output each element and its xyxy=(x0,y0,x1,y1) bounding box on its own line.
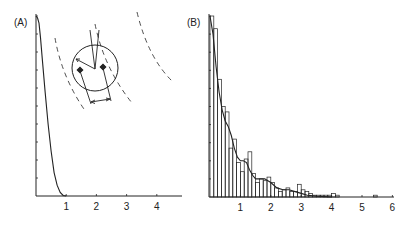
histogram-bar xyxy=(240,172,244,197)
histogram-bar xyxy=(335,195,339,197)
converging-line-right xyxy=(95,30,99,69)
panel-a-x-ticks: 1234 xyxy=(63,194,160,212)
extension-line-left xyxy=(80,71,91,104)
histogram-bar xyxy=(278,192,282,197)
inset-schematic xyxy=(55,12,173,112)
panel-a-label: (A) xyxy=(14,17,27,28)
panel-b-label: (B) xyxy=(187,17,200,28)
panel-b-x-ticks: 123456 xyxy=(238,195,396,213)
x-tick-label: 3 xyxy=(124,201,130,212)
converging-line-left xyxy=(90,30,95,69)
panel-b-fit-curve xyxy=(210,16,332,197)
histogram-bar xyxy=(290,192,294,197)
histogram-bar xyxy=(297,184,301,197)
x-tick-label: 3 xyxy=(298,202,304,213)
x-tick-label: 1 xyxy=(238,202,244,213)
x-tick-label: 5 xyxy=(359,202,365,213)
dashed-arc-outer xyxy=(137,12,173,82)
panel-a: (A) 1234 xyxy=(14,12,182,212)
panel-b: (B) 123456 xyxy=(187,14,396,213)
x-tick-label: 2 xyxy=(94,201,100,212)
histogram-bar xyxy=(373,195,377,197)
panel-b-histogram-bars xyxy=(210,16,377,197)
x-tick-label: 6 xyxy=(390,202,396,213)
histogram-bar xyxy=(237,163,241,197)
x-tick-label: 1 xyxy=(63,201,69,212)
dashed-arc-middle xyxy=(95,24,132,103)
x-tick-label: 2 xyxy=(268,202,274,213)
extension-line-right xyxy=(103,68,111,101)
histogram-bar xyxy=(332,193,336,197)
x-tick-label: 4 xyxy=(154,201,160,212)
histogram-bar xyxy=(259,179,263,197)
histogram-bar xyxy=(275,188,279,197)
panel-a-curve xyxy=(36,16,66,196)
histogram-bar xyxy=(263,181,267,197)
figure: (A) 1234 (B) 123456 xyxy=(0,0,413,228)
radius-line xyxy=(76,59,95,69)
histogram-bar xyxy=(282,190,286,197)
histogram-bar xyxy=(229,148,233,197)
histogram-bar xyxy=(256,183,260,198)
x-tick-label: 4 xyxy=(329,202,335,213)
histogram-bar xyxy=(248,152,252,197)
